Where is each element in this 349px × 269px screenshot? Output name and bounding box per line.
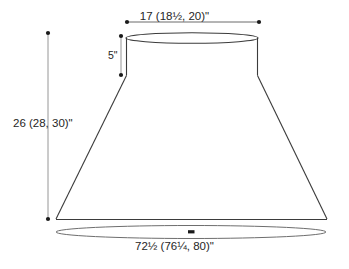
- lampshade-outline: [56, 33, 327, 239]
- diagram-canvas: [0, 0, 349, 269]
- skirt-right-edge: [258, 76, 328, 220]
- neck-height-bottom-marker: [119, 73, 123, 77]
- bottom-center-tick: [188, 230, 195, 233]
- height-bottom-marker: [46, 217, 50, 221]
- lampshade-dimension-diagram: 17 (18½, 20)" 26 (28, 30)" 5" 72½ (76¼, …: [0, 0, 349, 269]
- bottom-diameter-label: 72½ (76¼, 80)": [0, 241, 349, 253]
- neck-height-label: 5": [108, 50, 118, 61]
- height-top-marker: [46, 31, 50, 35]
- neck-height-top-marker: [119, 34, 123, 38]
- overall-height-label: 26 (28, 30)": [13, 118, 73, 130]
- top-rim-ellipse: [126, 33, 258, 43]
- neck-height-dimension: [119, 34, 123, 77]
- top-diameter-label: 17 (18½, 20)": [0, 11, 349, 23]
- skirt-left-edge: [56, 76, 127, 220]
